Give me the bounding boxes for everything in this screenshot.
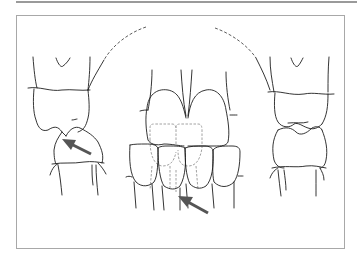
- left-lateral-view: [268, 57, 334, 196]
- dental-arch-dashed: [88, 27, 270, 90]
- dental-diagram: [0, 0, 357, 262]
- frontal-view: [126, 70, 243, 210]
- arrow-icon: [62, 139, 91, 154]
- arrow-icon: [178, 196, 208, 213]
